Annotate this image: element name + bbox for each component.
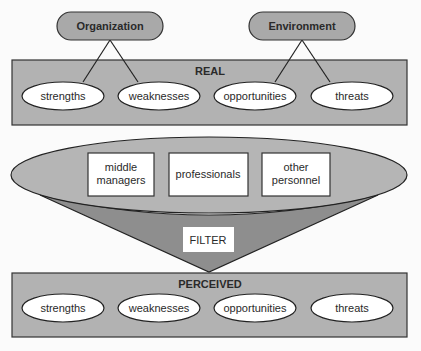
perceived-title: PERCEIVED — [178, 278, 242, 290]
perceived-item-weaknesses: weaknesses — [118, 294, 200, 322]
real-item-opportunities: opportunities — [214, 82, 296, 110]
svg-text:weaknesses: weaknesses — [128, 302, 190, 314]
svg-text:middle: middle — [105, 161, 137, 173]
svg-text:managers: managers — [97, 174, 146, 186]
svg-text:FILTER: FILTER — [189, 234, 226, 246]
svg-text:strengths: strengths — [40, 302, 86, 314]
svg-text:threats: threats — [335, 302, 369, 314]
perceived-item-strengths: strengths — [22, 294, 104, 322]
real-item-strengths: strengths — [22, 82, 104, 110]
real-item-threats: threats — [311, 82, 393, 110]
svg-text:other: other — [283, 161, 308, 173]
group-professionals: professionals — [169, 153, 248, 196]
organization-pill: Organization — [57, 12, 163, 40]
svg-text:Environment: Environment — [268, 20, 336, 32]
real-title: REAL — [195, 65, 225, 77]
svg-text:professionals: professionals — [176, 168, 241, 180]
svg-text:Organization: Organization — [76, 20, 144, 32]
svg-text:opportunities: opportunities — [224, 90, 287, 102]
svg-text:threats: threats — [335, 90, 369, 102]
swot-filter-diagram: REAL Organization Environment strengths … — [0, 0, 421, 351]
group-middle-managers: middle managers — [88, 153, 154, 196]
filter-label: FILTER — [183, 227, 234, 252]
svg-text:opportunities: opportunities — [224, 302, 287, 314]
svg-text:strengths: strengths — [40, 90, 86, 102]
perceived-item-opportunities: opportunities — [214, 294, 296, 322]
svg-text:weaknesses: weaknesses — [128, 90, 190, 102]
group-other-personnel: other personnel — [262, 153, 330, 196]
environment-pill: Environment — [249, 12, 355, 40]
real-item-weaknesses: weaknesses — [118, 82, 200, 110]
perceived-item-threats: threats — [311, 294, 393, 322]
svg-text:personnel: personnel — [272, 174, 320, 186]
